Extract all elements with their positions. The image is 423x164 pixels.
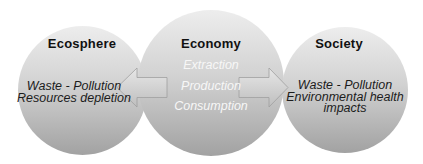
society-line-3: impacts bbox=[282, 103, 408, 115]
economy-label: Economy bbox=[138, 36, 284, 51]
society-label: Society bbox=[276, 36, 402, 51]
ecosphere-label: Ecosphere bbox=[18, 36, 146, 51]
ecosphere-impacts-text: Waste - Pollution Resources depletion bbox=[10, 80, 138, 104]
economy-line-2: Production bbox=[138, 76, 284, 97]
ecosphere-line-2: Resources depletion bbox=[10, 92, 138, 104]
economy-line-1: Extraction bbox=[138, 55, 284, 76]
sustainability-diagram: Ecosphere Economy Society Waste - Pollut… bbox=[0, 0, 423, 164]
economy-processes-text: Extraction Production Consumption bbox=[138, 55, 284, 117]
economy-line-3: Consumption bbox=[138, 96, 284, 117]
society-impacts-text: Waste - Pollution Environmental health i… bbox=[282, 80, 408, 115]
